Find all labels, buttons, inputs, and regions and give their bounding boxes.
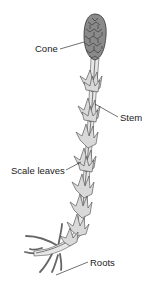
leader-line-cone [60, 42, 84, 49]
label-cone: Cone [35, 42, 84, 54]
label-scale-leaves: Scale leaves [11, 162, 81, 176]
label-stem-text: Stem [120, 112, 142, 123]
cone [84, 14, 106, 60]
label-stem: Stem [95, 104, 142, 123]
label-cone-text: Cone [35, 43, 58, 54]
label-roots-text: Roots [90, 257, 115, 268]
label-scale-leaves-text: Scale leaves [11, 165, 65, 176]
label-roots: Roots [56, 257, 115, 275]
horsetail-diagram: Cone Stem Scale leaves Roots [0, 0, 156, 285]
